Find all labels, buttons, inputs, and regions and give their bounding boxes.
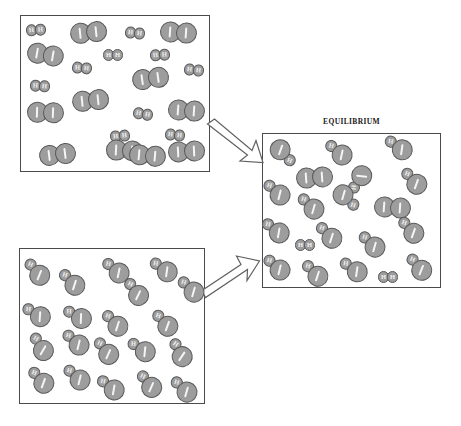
atom-marking <box>96 94 100 105</box>
atom-marking <box>277 189 282 200</box>
hydrogen-atom-label: H <box>29 27 35 34</box>
atom-marking <box>148 381 155 392</box>
atom-marking <box>116 267 121 278</box>
equilibrium-label: EQUILIBRIUM <box>262 117 441 126</box>
hydrogen-atom-label: H <box>84 65 90 72</box>
reaction-arrow-up-right-icon <box>200 252 262 300</box>
atom-marking <box>78 27 82 38</box>
atom-marking <box>52 107 55 118</box>
atom-marking <box>153 150 156 161</box>
atom-marking <box>315 270 321 281</box>
atom-marking <box>277 227 281 238</box>
iodine-atom <box>183 99 205 121</box>
atom-marking <box>168 26 171 37</box>
atom-marking <box>156 71 160 82</box>
hydrogen-atom: H <box>304 239 316 251</box>
atom-marking <box>341 190 346 201</box>
atom-marking <box>356 174 367 178</box>
hydrogen-atom-label: H <box>33 82 39 89</box>
atom-marking <box>311 203 316 214</box>
equilibrium-diagram: EQUILIBRIUM HHHHHHHHHHHHHHHHHHHHHHHHHHHH… <box>0 0 461 426</box>
hydrogen-atom-label: H <box>42 83 48 90</box>
hydrogen-atom-label: H <box>187 66 193 73</box>
hydrogen-atom-label: H <box>144 111 150 118</box>
hydrogen-atom-label: H <box>38 26 44 33</box>
hydrogen-atom-label: H <box>128 29 134 36</box>
atom-marking <box>80 95 84 106</box>
atom-marking <box>38 311 41 322</box>
hydrogen-atom-label: H <box>381 274 386 281</box>
atom-marking <box>115 144 118 155</box>
hydrogen-atom-label: H <box>75 64 81 71</box>
atom-marking <box>192 105 195 116</box>
atom-marking <box>105 348 112 359</box>
hydrogen-atom: H <box>112 49 124 61</box>
atom-marking <box>41 377 47 388</box>
hydrogen-atom-label: H <box>115 52 120 59</box>
iodine-atom <box>29 305 51 327</box>
atom-marking <box>47 149 51 160</box>
hydrogen-atom-label: H <box>196 67 202 74</box>
atom-marking <box>184 386 189 397</box>
hydrogen-atom-label: H <box>350 201 357 209</box>
atom-marking <box>329 232 335 243</box>
hydrogen-atom-label: H <box>122 132 128 139</box>
atom-marking <box>165 320 171 331</box>
hydrogen-atom-label: H <box>177 132 183 139</box>
atom-marking <box>277 145 283 156</box>
atom-marking <box>191 286 196 297</box>
iodine-atom <box>183 140 205 162</box>
atom-marking <box>400 144 404 155</box>
atom-marking <box>36 106 39 117</box>
atom-marking <box>176 104 179 115</box>
iodine-atom <box>70 307 92 329</box>
hydrogen-atom-label: H <box>390 274 395 281</box>
hydrogen-atom-label: H <box>153 52 159 59</box>
atom-marking <box>177 146 180 157</box>
iodine-atom <box>389 196 411 218</box>
hydrogen-atom-label: H <box>162 51 168 58</box>
hydrogen-atom-label: H <box>137 30 143 37</box>
atom-marking <box>76 339 81 350</box>
iodine-atom <box>42 101 64 123</box>
atom-marking <box>355 266 359 277</box>
atom-marking <box>51 50 55 61</box>
hydrogen-atom-label: H <box>298 242 303 249</box>
atom-marking <box>115 320 121 331</box>
hydrogen-atom-label: H <box>168 131 174 138</box>
atom-marking <box>72 279 78 290</box>
atom-marking <box>94 26 98 37</box>
atom-marking <box>339 149 344 160</box>
iodine-atom <box>311 165 333 187</box>
reaction-arrow-down-right-icon <box>206 118 266 168</box>
atom-marking <box>192 145 195 156</box>
atom-marking <box>382 201 385 212</box>
atom-marking <box>137 149 140 160</box>
atom-marking <box>35 47 39 58</box>
atom-marking <box>414 178 420 189</box>
atom-marking <box>411 227 417 238</box>
atom-marking <box>165 266 169 277</box>
atom-marking <box>277 264 282 275</box>
atom-marking <box>135 289 142 300</box>
hydrogen-atom-label: H <box>307 242 312 249</box>
atom-marking <box>418 264 424 275</box>
atom-marking <box>304 172 307 183</box>
atom-marking <box>184 27 187 38</box>
atom-marking <box>372 241 377 252</box>
atom-marking <box>178 351 186 361</box>
atom-marking <box>77 374 82 385</box>
iodine-atom <box>175 21 197 43</box>
atom-marking <box>63 147 67 158</box>
atom-marking <box>112 384 116 395</box>
atom-marking <box>320 171 323 182</box>
hydrogen-atom-label: H <box>106 52 111 59</box>
atom-marking <box>39 345 47 356</box>
atom-marking <box>140 74 144 85</box>
atom-marking <box>36 269 42 280</box>
atom-marking <box>80 313 83 324</box>
atom-marking <box>398 202 401 213</box>
atom-marking <box>143 346 147 357</box>
hydrogen-atom: H <box>387 271 399 283</box>
